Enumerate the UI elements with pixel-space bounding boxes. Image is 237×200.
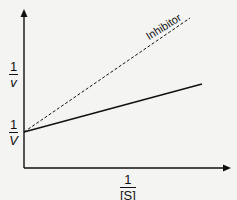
y-axis xyxy=(21,9,28,168)
plot-canvas xyxy=(0,0,237,200)
y-axis-arrow-icon xyxy=(21,9,28,17)
x-axis xyxy=(24,165,231,172)
intercept-label: 1 V xyxy=(9,118,18,147)
y-axis-label: 1 v xyxy=(9,60,18,89)
inhibitor-line xyxy=(24,18,190,132)
uninhibited-line xyxy=(24,84,202,132)
x-axis-arrow-icon xyxy=(223,165,231,172)
x-axis-label: 1 [S] xyxy=(120,173,136,200)
